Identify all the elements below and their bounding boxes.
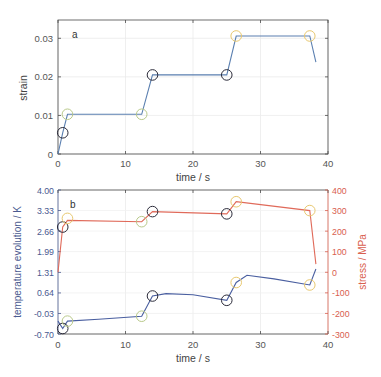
x-tick-label: 20 xyxy=(188,158,199,169)
x-tick-label: 0 xyxy=(55,158,60,169)
y-right-axis-label: stress / MPa xyxy=(357,234,368,290)
y-right-tick-label: 400 xyxy=(332,186,347,196)
chart-figure: 01020304000.010.020.03time / sstraina 01… xyxy=(0,0,381,377)
y-left-tick-label: -0.03 xyxy=(34,309,54,319)
panel-label: a xyxy=(72,29,78,40)
y-left-tick-label: 1.31 xyxy=(37,268,54,278)
y-tick-label: 0 xyxy=(48,149,53,160)
panel-b-temperature-stress-chart: 010203040-0.70-0.030.641.311.992.663.334… xyxy=(12,186,368,365)
y-right-tick-label: 300 xyxy=(332,206,347,216)
y-right-tick-label: 0 xyxy=(332,268,337,278)
x-tick-label: 30 xyxy=(255,339,266,350)
x-tick-label: 40 xyxy=(323,339,334,350)
y-left-tick-label: 2.66 xyxy=(37,227,54,237)
y-right-tick-label: 200 xyxy=(332,227,347,237)
y-tick-label: 0.02 xyxy=(35,71,54,82)
y-axis-label: strain xyxy=(17,75,29,101)
x-tick-label: 10 xyxy=(120,339,131,350)
panel-label: b xyxy=(70,199,76,210)
y-tick-label: 0.01 xyxy=(35,110,54,121)
y-left-tick-label: -0.70 xyxy=(34,330,54,340)
temperature-line xyxy=(58,269,316,329)
y-right-tick-label: -200 xyxy=(332,309,350,319)
y-left-tick-label: 3.33 xyxy=(37,206,54,216)
y-left-tick-label: 0.64 xyxy=(37,288,54,298)
data-marker xyxy=(62,213,73,224)
x-axis-label: time / s xyxy=(176,352,210,364)
y-right-tick-label: -100 xyxy=(332,288,350,298)
x-tick-label: 10 xyxy=(120,158,131,169)
stress-line xyxy=(58,202,316,273)
x-tick-label: 30 xyxy=(255,158,266,169)
y-left-tick-label: 1.99 xyxy=(37,247,54,257)
y-tick-label: 0.03 xyxy=(35,33,54,44)
strain-line xyxy=(58,36,316,154)
y-right-tick-label: -300 xyxy=(332,330,350,340)
x-tick-label: 20 xyxy=(188,339,199,350)
x-tick-label: 0 xyxy=(55,339,60,350)
x-tick-label: 40 xyxy=(323,158,334,169)
y-left-axis-label: temperature evolution / K xyxy=(12,206,23,318)
y-left-tick-label: 4.00 xyxy=(37,186,54,196)
panel-a-strain-chart: 01020304000.010.020.03time / sstraina xyxy=(17,20,333,183)
y-right-tick-label: 100 xyxy=(332,247,347,257)
x-axis-label: time / s xyxy=(176,171,210,183)
